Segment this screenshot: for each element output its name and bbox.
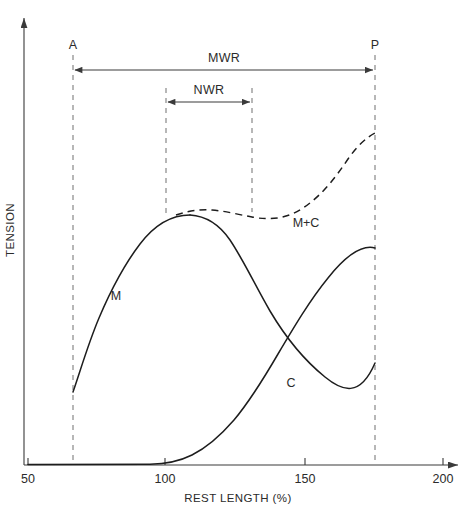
- x-tick-label-150: 150: [295, 472, 316, 486]
- nwr-label: NWR: [194, 83, 225, 97]
- curve-m: [73, 215, 190, 392]
- chart-canvas: 50 100 150 200 REST LENGTH (%) TENSION A…: [0, 0, 476, 510]
- axes-group: 50 100 150 200 REST LENGTH (%) TENSION: [4, 18, 458, 504]
- vertical-marker-lines: [73, 55, 375, 465]
- x-tick-label-100: 100: [155, 472, 176, 486]
- x-axis-tick-labels: 50 100 150 200: [21, 472, 453, 486]
- mwr-label: MWR: [208, 51, 240, 65]
- x-axis-title: REST LENGTH (%): [184, 492, 291, 504]
- length-tension-chart-figure: 50 100 150 200 REST LENGTH (%) TENSION A…: [0, 0, 476, 510]
- curve-label-m-plus-c: M+C: [293, 216, 320, 230]
- curve-m-plus-c: [176, 133, 375, 219]
- marker-label-a: A: [69, 38, 78, 52]
- mwr-range-annotation: MWR: [75, 51, 373, 70]
- x-tick-label-200: 200: [433, 472, 454, 486]
- marker-label-p: P: [371, 38, 379, 52]
- curve-m-descending: [190, 215, 375, 388]
- nwr-range-annotation: NWR: [168, 83, 250, 102]
- x-tick-label-50: 50: [21, 472, 35, 486]
- y-axis-title: TENSION: [4, 203, 16, 257]
- curve-label-m: M: [111, 289, 121, 303]
- curve-label-c: C: [286, 376, 295, 390]
- curve-c: [28, 247, 375, 464]
